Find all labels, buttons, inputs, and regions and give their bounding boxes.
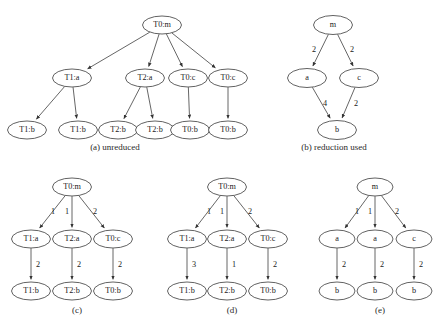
graph-node[interactable]: T0:b [249, 282, 288, 300]
node-label: T1:b [179, 286, 194, 295]
graph-node[interactable]: T1:b [8, 121, 47, 139]
graph-edge [36, 87, 64, 120]
node-label: a [335, 234, 339, 243]
panel-e: 112222maacbbb(e) [319, 178, 432, 315]
graph-node[interactable]: T0:m [208, 178, 247, 196]
edge-weight-label: 2 [312, 45, 316, 54]
node-label: T0:m [218, 182, 236, 191]
node-label: T0:c [105, 234, 120, 243]
figure-canvas: T0:mT1:aT2:aT0:cT0:cT1:bT1:bT2:bT2:bT0:b… [0, 0, 446, 328]
graph-edge [172, 33, 215, 68]
graph-node[interactable]: T0:c [249, 230, 288, 248]
graph-node[interactable]: c [396, 230, 432, 248]
graph-node[interactable]: m [357, 178, 393, 196]
graph-node[interactable]: T0:c [169, 69, 208, 87]
graph-node[interactable]: a [357, 230, 393, 248]
graph-node[interactable]: T0:c [94, 230, 133, 248]
graph-node[interactable]: b [318, 121, 357, 140]
node-label: a [305, 73, 309, 82]
node-label: T1:a [64, 73, 79, 82]
graph-edge [312, 87, 330, 118]
edge-weight-label: 2 [248, 207, 252, 216]
graph-edge [188, 87, 189, 118]
graph-node[interactable]: a [319, 230, 355, 248]
graph-node[interactable]: T0:b [209, 121, 248, 139]
graph-node[interactable]: T2:b [99, 121, 138, 139]
graph-node[interactable]: T0:m [53, 178, 92, 196]
node-label: T2:b [147, 125, 162, 134]
edge-weight-label: 2 [350, 45, 354, 54]
graph-node[interactable]: T0:b [94, 282, 133, 300]
panel-c-caption: (c) [72, 305, 82, 315]
node-label: T2:a [64, 234, 79, 243]
graph-node[interactable]: m [314, 16, 353, 35]
node-label: T2:a [219, 234, 234, 243]
panel-b-caption: (b) reduction used [301, 142, 367, 152]
graph-node[interactable]: T0:c [209, 69, 248, 87]
node-label: T1:b [19, 125, 34, 134]
node-label: T0:c [180, 73, 195, 82]
panel-b-nodes: macb [288, 16, 379, 140]
node-label: b [412, 286, 416, 295]
node-label: c [357, 73, 361, 82]
edge-weight-label: 2 [273, 260, 277, 269]
node-label: T0:m [153, 20, 171, 29]
graph-node[interactable]: T1:b [59, 121, 98, 139]
node-label: T2:b [64, 286, 79, 295]
node-label: T1:b [70, 125, 85, 134]
edge-weight-label: 2 [342, 260, 346, 269]
graph-node[interactable]: b [357, 282, 393, 300]
node-label: a [373, 234, 377, 243]
panels-root: T0:mT1:aT2:aT0:cT0:cT1:bT1:bT2:bT2:bT0:b… [8, 16, 433, 316]
node-label: T0:c [220, 73, 235, 82]
edge-weight-label: 2 [118, 260, 122, 269]
graph-edge [149, 34, 159, 66]
graph-node[interactable]: T2:b [136, 121, 175, 139]
node-label: m [372, 182, 379, 191]
graph-node[interactable]: T2:a [126, 69, 165, 87]
graph-node[interactable]: T0:m [143, 16, 182, 34]
graph-node[interactable]: T0:b [171, 121, 210, 139]
graph-node[interactable]: T2:b [53, 282, 92, 300]
panel-d: 112312T0:mT1:aT2:aT0:cT1:bT2:bT0:b(d) [168, 178, 288, 315]
edge-weight-label: 4 [323, 99, 327, 108]
graph-edge [234, 196, 260, 228]
graph-edge [88, 32, 150, 69]
graph-node[interactable]: T1:a [12, 230, 51, 248]
graph-node[interactable]: T2:a [208, 230, 247, 248]
node-label: T0:b [260, 286, 275, 295]
graph-node[interactable]: T1:b [168, 282, 207, 300]
edge-weight-label: 1 [368, 207, 372, 216]
edge-weight-label: 3 [192, 260, 196, 269]
edge-weight-label: 1 [220, 207, 224, 216]
edge-weight-label: 1 [51, 207, 55, 216]
graph-edge [79, 196, 105, 228]
graph-node[interactable]: a [288, 69, 327, 88]
node-label: T0:b [105, 286, 120, 295]
node-label: c [412, 234, 416, 243]
graph-node[interactable]: b [319, 282, 355, 300]
graph-edge [381, 196, 405, 228]
graph-node[interactable]: T2:a [53, 230, 92, 248]
edge-weight-label: 2 [419, 260, 423, 269]
graph-node[interactable]: c [340, 69, 379, 88]
edge-weight-label: 2 [395, 207, 399, 216]
edge-weight-label: 2 [380, 260, 384, 269]
node-label: T0:c [260, 234, 275, 243]
graph-node[interactable]: T2:b [208, 282, 247, 300]
graph-node[interactable]: T1:b [12, 282, 51, 300]
node-label: T2:b [219, 286, 234, 295]
panel-e-caption: (e) [375, 305, 385, 315]
node-label: b [335, 125, 339, 134]
graph-node[interactable]: b [396, 282, 432, 300]
graph-node[interactable]: T1:a [168, 230, 207, 248]
node-label: b [373, 286, 377, 295]
panel-a-nodes: T0:mT1:aT2:aT0:cT0:cT1:bT1:bT2:bT2:bT0:b… [8, 16, 248, 139]
node-label: T0:b [182, 125, 197, 134]
edge-weight-label: 2 [36, 260, 40, 269]
node-label: m [330, 20, 337, 29]
panel-a-caption: (a) unreduced [90, 142, 140, 152]
graph-node[interactable]: T1:a [53, 69, 92, 87]
node-label: T1:a [179, 234, 194, 243]
edge-weight-label: 2 [354, 99, 358, 108]
